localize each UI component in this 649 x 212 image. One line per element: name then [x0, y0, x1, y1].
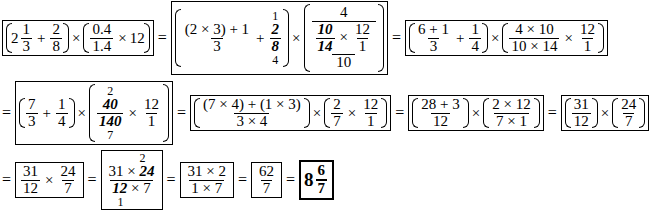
fraction: 3112 [21, 164, 40, 197]
equals-sign: = [286, 171, 295, 189]
times-sign: × [72, 30, 80, 47]
numerator: 7 [26, 97, 38, 113]
numerator: 12 [361, 97, 380, 113]
numerator: (2 × 3) + 1 [183, 22, 251, 38]
denominator: 1 × 7 [189, 180, 224, 197]
fraction: 121 [142, 97, 161, 130]
denominator: 7 [623, 113, 635, 130]
numerator: 31 × 2 [186, 164, 228, 180]
numerator: 4 [338, 5, 350, 21]
denominator: 3 × 4 [234, 113, 269, 130]
denominator: 1 [582, 38, 594, 55]
plus-sign: + [256, 30, 264, 47]
inner-expr: 1014 × 121 [314, 22, 374, 55]
times-sign: × [472, 105, 480, 122]
paren-group: 2 13 + 28 [6, 22, 69, 55]
fraction: 0.41.4 [90, 22, 113, 55]
fraction: 247 [59, 164, 78, 197]
times-sign: × [45, 172, 53, 189]
denominator: 7 × 1 [494, 113, 529, 130]
number: 12 [130, 30, 145, 47]
paren-group: 0.41.4 × 12 [83, 22, 149, 55]
numerator-part: 31 × [109, 163, 140, 179]
paren-group: 28 + 312 [412, 97, 468, 130]
fraction: 28 + 312 [419, 97, 461, 130]
cancelled-fraction: 2 40140 7 [95, 85, 126, 142]
paren-group: 4 × 1010 × 14 × 121 [502, 22, 603, 55]
times-sign: × [340, 30, 348, 46]
times-sign: × [118, 30, 126, 47]
fraction: 27 [331, 97, 343, 130]
fraction: 3112 [572, 97, 591, 130]
denominator: 12 [431, 113, 450, 130]
denominator: 1 [357, 38, 369, 55]
denominator: 3 [21, 38, 33, 55]
paren-group: 3112 [565, 97, 598, 130]
denominator: 1 [365, 113, 377, 130]
reduced-denominator: 1 [118, 196, 124, 208]
denominator: 12 × 7 [110, 180, 152, 197]
numerator: 62 [257, 164, 276, 180]
denominator: 8 [50, 38, 62, 55]
denominator: 12 [572, 113, 591, 130]
cancelled-fraction: 1 28 4 [268, 10, 284, 67]
denominator: 3 [26, 113, 38, 130]
fraction: 13 [21, 22, 33, 55]
denominator: 140 [97, 113, 124, 130]
equals-sign: = [177, 104, 186, 122]
denominator: 7 [316, 179, 328, 197]
step-r3s2: 2 31 × 24 12 × 7 1 [101, 150, 163, 211]
times-sign: × [601, 105, 609, 122]
equals-sign: = [238, 171, 247, 189]
whole: 8 [304, 169, 314, 191]
equals-sign: = [158, 29, 167, 47]
denominator: 7 [62, 180, 74, 197]
fraction: 31 × 24 12 × 7 [107, 164, 157, 197]
numerator: 0.4 [90, 22, 113, 38]
step-r3s4: 627 [251, 162, 282, 199]
step-r3s3: 31 × 21 × 7 [180, 162, 234, 199]
fraction: 67 [316, 163, 328, 197]
denominator: 1.4 [90, 38, 113, 55]
numerator: (7 × 4) + (1 × 3) [201, 97, 303, 113]
times-sign: × [491, 30, 499, 47]
denominator: 4 [56, 113, 68, 130]
equation-row-3: = 3112 × 247 = 2 31 × 24 12 × 7 1 = 31 ×… [0, 150, 334, 210]
denominator: 4 [469, 38, 481, 55]
numerator: 2 [331, 97, 343, 113]
equation-row-1: 2 13 + 28 × 0.41.4 × 12 = (2 × 3) + 13 +… [0, 2, 608, 74]
plus-sign: + [456, 30, 464, 47]
fraction: 247 [619, 97, 638, 130]
paren-group: 4 1014 × 121 10 [304, 3, 384, 73]
numerator: 31 [21, 164, 40, 180]
fraction: 6 + 13 [416, 22, 451, 55]
complex-fraction: 4 1014 × 121 10 [312, 5, 376, 71]
equals-sign: = [2, 171, 11, 189]
whole: 2 [11, 30, 19, 47]
denominator: 8 [270, 38, 282, 55]
step-r1s1: 2 13 + 28 × 0.41.4 × 12 [2, 20, 154, 57]
step-r3s1: 3112 × 247 [15, 162, 83, 199]
numerator: 31 × 24 [107, 164, 157, 180]
step-r2s4: 3112 × 247 [561, 95, 649, 132]
fraction: (7 × 4) + (1 × 3)3 × 4 [201, 97, 303, 130]
step-r1s3: 6 + 13 + 14 × 4 × 1010 × 14 × 121 [405, 20, 608, 57]
denominator: 1 [146, 113, 158, 130]
paren-group: 27 × 121 [324, 97, 387, 130]
numerator: 6 + 1 [416, 22, 451, 38]
reduced-denominator: 7 [107, 129, 113, 141]
equals-sign: = [88, 171, 97, 189]
numerator: 4 × 10 [513, 22, 555, 38]
numerator: 31 [572, 97, 591, 113]
denominator-part: × 7 [127, 180, 150, 196]
denominator: 7 [331, 113, 343, 130]
numerator: 12 [353, 22, 372, 38]
paren-group: 6 + 13 + 14 [409, 22, 488, 55]
equals-sign: = [392, 29, 401, 47]
numerator: 12 [142, 97, 161, 113]
denominator: 14 [316, 38, 335, 55]
fraction: 40140 [97, 97, 124, 130]
equals-sign: = [395, 104, 404, 122]
numerator: 24 [59, 164, 78, 180]
fraction: 28 [270, 22, 282, 55]
